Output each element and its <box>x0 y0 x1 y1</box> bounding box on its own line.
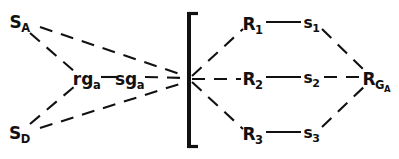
node-subscript-s3: 3 <box>312 132 320 145</box>
edge-SD-converge <box>40 82 186 128</box>
node-label-s3: s3 <box>304 126 321 142</box>
node-base-s3: s <box>304 124 313 142</box>
node-subscript-R3: 3 <box>255 133 263 147</box>
edge-SA-converge <box>40 27 186 76</box>
node-label-R3: R3 <box>242 126 263 143</box>
node-base-s2: s <box>304 69 313 87</box>
node-subscript-R2: 2 <box>255 78 263 92</box>
node-subscript-s2: 2 <box>312 77 320 90</box>
node-base-SD: S <box>9 123 21 143</box>
node-subscript-s1: 1 <box>312 22 320 35</box>
node-subscript-R1: 1 <box>255 23 263 37</box>
node-base-R1: R <box>242 14 255 34</box>
node-label-R2: R2 <box>242 71 263 88</box>
node-subsubscript-RGA: A <box>384 84 391 94</box>
diagram-canvas: SASDrgasgaR1s1R2s2R3s3RGA <box>0 0 399 159</box>
node-label-R1: R1 <box>242 16 263 33</box>
node-label-RGA: RGA <box>362 71 391 88</box>
node-label-s2: s2 <box>304 71 321 87</box>
node-base-SA: S <box>9 12 21 32</box>
node-label-SA: SA <box>9 14 30 31</box>
node-label-s1: s1 <box>304 16 321 32</box>
node-subscript-RGA: G <box>375 78 384 92</box>
node-subscript-SA: A <box>21 21 30 35</box>
node-label-SD: SD <box>9 125 31 142</box>
node-base-rga: rg <box>73 69 94 89</box>
edge-SA-rga <box>30 33 75 72</box>
edge-bracket-R3 <box>192 82 243 129</box>
edge-s3-RGA <box>322 84 367 127</box>
node-base-s1: s <box>304 14 313 32</box>
edge-s1-RGA <box>322 29 367 73</box>
node-base-R3: R <box>242 124 255 144</box>
node-base-R2: R <box>242 69 255 89</box>
node-base-sga: sg <box>115 69 137 89</box>
edge-bracket-R1 <box>192 29 243 76</box>
node-base-RGA: R <box>362 69 375 89</box>
node-subscript-rga: a <box>93 78 101 92</box>
diagram-edges-layer <box>0 0 399 159</box>
node-label-sga: sga <box>115 71 145 88</box>
node-subscript-sga: a <box>137 78 145 92</box>
node-subscript-SD: D <box>21 132 31 146</box>
edge-sga-converge <box>145 77 186 78</box>
node-label-rga: rga <box>73 71 101 88</box>
